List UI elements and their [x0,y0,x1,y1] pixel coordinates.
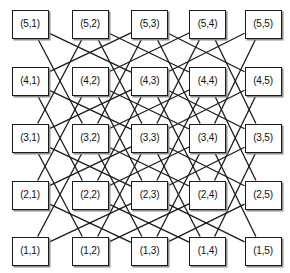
graph-node-label: (5,1) [20,19,40,29]
graph-node-1-3[interactable]: (1,3) [131,237,168,266]
graph-node-4-4[interactable]: (4,4) [189,67,226,96]
graph-node-5-5[interactable]: (5,5) [245,10,282,39]
graph-node-2-1[interactable]: (2,1) [12,181,49,210]
graph-node-2-3[interactable]: (2,3) [131,181,168,210]
graph-node-2-2[interactable]: (2,2) [72,181,109,210]
graph-node-label: (1,1) [20,246,40,256]
graph-node-1-1[interactable]: (1,1) [12,237,49,266]
graph-node-4-1[interactable]: (4,1) [12,67,49,96]
graph-node-label: (2,5) [253,190,273,200]
graph-node-2-5[interactable]: (2,5) [245,181,282,210]
graph-node-label: (5,5) [253,19,273,29]
graph-node-label: (3,5) [253,133,273,143]
graph-node-1-5[interactable]: (1,5) [245,237,282,266]
graph-node-1-2[interactable]: (1,2) [72,237,109,266]
graph-node-label: (2,2) [80,190,100,200]
graph-node-3-5[interactable]: (3,5) [245,124,282,153]
graph-node-label: (5,2) [80,19,100,29]
graph-node-label: (2,4) [198,190,218,200]
graph-node-label: (3,1) [20,133,40,143]
graph-node-label: (1,4) [198,246,218,256]
graph-node-3-1[interactable]: (3,1) [12,124,49,153]
graph-node-3-4[interactable]: (3,4) [189,124,226,153]
graph-node-label: (1,5) [253,246,273,256]
graph-node-label: (5,4) [198,19,218,29]
graph-node-2-4[interactable]: (2,4) [189,181,226,210]
graph-node-label: (2,1) [20,190,40,200]
graph-node-4-5[interactable]: (4,5) [245,67,282,96]
graph-node-4-3[interactable]: (4,3) [131,67,168,96]
graph-node-5-3[interactable]: (5,3) [131,10,168,39]
graph-node-label: (2,3) [140,190,160,200]
graph-node-label: (5,3) [140,19,160,29]
graph-node-label: (4,2) [80,76,100,86]
graph-node-4-2[interactable]: (4,2) [72,67,109,96]
graph-node-label: (1,2) [80,246,100,256]
graph-node-label: (1,3) [140,246,160,256]
graph-node-label: (4,1) [20,76,40,86]
graph-node-label: (4,5) [253,76,273,86]
graph-node-1-4[interactable]: (1,4) [189,237,226,266]
node-layer: (5,1)(5,2)(5,3)(5,4)(5,5)(4,1)(4,2)(4,3)… [0,0,290,273]
graph-node-3-3[interactable]: (3,3) [131,124,168,153]
knight-graph-figure: (5,1)(5,2)(5,3)(5,4)(5,5)(4,1)(4,2)(4,3)… [0,0,290,273]
graph-node-3-2[interactable]: (3,2) [72,124,109,153]
graph-node-label: (3,4) [198,133,218,143]
graph-node-label: (3,2) [80,133,100,143]
graph-node-5-4[interactable]: (5,4) [189,10,226,39]
graph-node-label: (3,3) [140,133,160,143]
graph-node-label: (4,3) [140,76,160,86]
graph-node-label: (4,4) [198,76,218,86]
graph-node-5-2[interactable]: (5,2) [72,10,109,39]
graph-node-5-1[interactable]: (5,1) [12,10,49,39]
